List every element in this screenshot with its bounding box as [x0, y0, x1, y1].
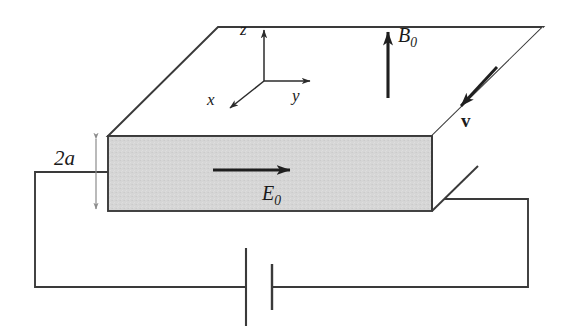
magnetic-field-symbol: B	[398, 24, 410, 46]
velocity-label: v	[461, 110, 471, 131]
magnetic-field-subscript: 0	[410, 35, 417, 50]
thickness-label: 2a	[54, 146, 75, 170]
diagram-canvas: 2a z y x E0 B0 v	[0, 0, 568, 328]
conducting-slab	[108, 27, 543, 211]
y-axis-label: y	[290, 86, 300, 105]
physics-diagram-figure: 2a z y x E0 B0 v	[0, 0, 568, 328]
thickness-dimension: 2a	[54, 139, 96, 209]
electric-field-symbol: E	[261, 182, 274, 204]
electric-field-subscript: 0	[274, 193, 281, 208]
x-axis-label: x	[206, 90, 215, 109]
battery-symbol	[246, 248, 272, 326]
circuit-wire-right	[272, 199, 528, 287]
z-axis-label: z	[239, 20, 247, 39]
